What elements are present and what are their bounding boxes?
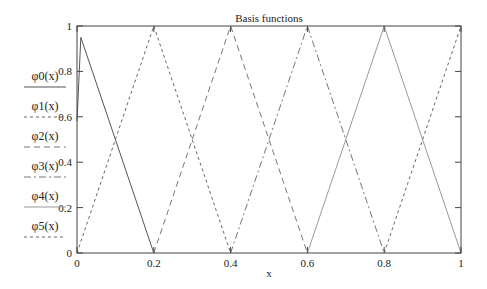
chart-title: Basis functions (235, 12, 303, 24)
x-tick-label: 0.6 (301, 257, 315, 269)
legend-label-phi0: φ0(x) (32, 69, 59, 83)
series-line-phi1 (77, 26, 231, 253)
x-tick-label: 0 (74, 257, 80, 269)
x-tick-label: 0.8 (377, 257, 391, 269)
y-axis-ticks: 00.20.40.60.81 (58, 20, 461, 259)
legend-label-phi1: φ1(x) (32, 99, 59, 113)
series-line-phi3 (231, 26, 385, 253)
y-tick-label: 0.4 (58, 156, 72, 168)
x-axis-ticks: 00.20.40.60.81 (74, 26, 464, 269)
series-line-phi0 (77, 37, 154, 253)
y-tick-label: 0.2 (58, 202, 72, 214)
x-tick-label: 0.2 (147, 257, 161, 269)
y-tick-label: 1 (67, 20, 73, 32)
plot-series (77, 26, 461, 253)
series-line-phi2 (154, 26, 308, 253)
basis-functions-chart: Basis functions 00.20.40.60.81 00.20.40.… (0, 0, 487, 289)
plot-frame (77, 26, 461, 253)
legend-label-phi3: φ3(x) (32, 159, 59, 173)
legend-label-phi4: φ4(x) (32, 189, 59, 203)
legend-label-phi2: φ2(x) (32, 129, 59, 143)
x-tick-label: 1 (458, 257, 464, 269)
x-tick-label: 0.4 (224, 257, 238, 269)
x-axis-label: x (266, 267, 272, 279)
y-tick-label: 0.8 (58, 65, 72, 77)
series-line-phi4 (307, 26, 461, 253)
y-tick-label: 0 (67, 247, 73, 259)
legend-label-phi5: φ5(x) (32, 219, 59, 233)
